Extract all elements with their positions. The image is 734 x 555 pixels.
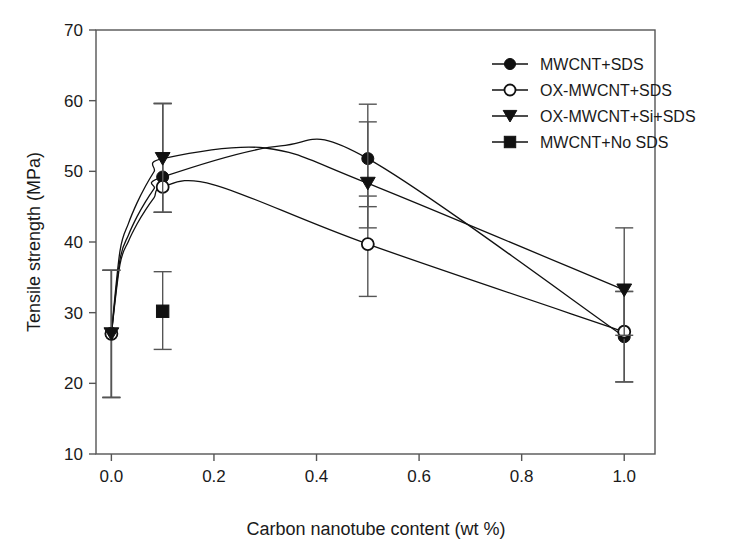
x-tick-label-1.0: 1.0 [612,467,636,486]
legend-marker-filled-square [504,136,515,147]
tensile-strength-chart: 10203040506070 0.00.20.40.60.81.0 Tensil… [0,0,734,555]
x-tick-label-0.6: 0.6 [407,467,431,486]
x-tick-label-0.4: 0.4 [305,467,329,486]
y-tick-label-60: 60 [64,92,83,111]
y-axis-title: Tensile strength (MPa) [24,152,44,332]
legend-label: MWCNT+No SDS [540,134,668,151]
chart-svg: 10203040506070 0.00.20.40.60.81.0 Tensil… [0,0,734,555]
y-tick-label-50: 50 [64,162,83,181]
y-tick-label-70: 70 [64,21,83,40]
data-point-marker [156,305,168,317]
x-tick-label-0.0: 0.0 [100,467,124,486]
x-tick-label-0.2: 0.2 [202,467,226,486]
legend-marker-open-circle [504,84,515,95]
y-tick-label-30: 30 [64,304,83,323]
x-tick-label-0.8: 0.8 [510,467,534,486]
y-tick-label-20: 20 [64,374,83,393]
legend-label: OX-MWCNT+Si+SDS [540,108,696,125]
legend-label: MWCNT+SDS [540,56,644,73]
legend-label: OX-MWCNT+SDS [540,82,672,99]
data-point-marker [362,238,374,250]
y-tick-label-40: 40 [64,233,83,252]
y-tick-label-10: 10 [64,445,83,464]
legend-marker-filled-circle [504,58,515,69]
x-axis-title: Carbon nanotube content (wt %) [246,519,505,539]
